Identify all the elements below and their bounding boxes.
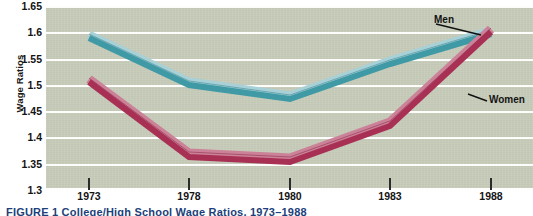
- x-tick-label-1983: 1983: [360, 190, 420, 202]
- figure-caption: FIGURE 1 College/High School Wage Ratios…: [6, 206, 526, 216]
- y-tick-label-1-3: 1.3: [8, 184, 42, 196]
- y-tick-label-1-55: 1.55: [8, 53, 42, 65]
- series-label-men: Men: [434, 14, 454, 25]
- plot-area: [46, 6, 533, 190]
- x-tick-label-1988: 1988: [461, 190, 521, 202]
- y-tick-label-1-35: 1.35: [8, 158, 42, 170]
- y-tick-label-1-5: 1.5: [8, 79, 42, 91]
- y-tick-label-1-4: 1.4: [8, 131, 42, 143]
- x-tick-label-1973: 1973: [59, 190, 119, 202]
- x-tick-label-1978: 1978: [159, 190, 219, 202]
- x-tick-label-1980: 1980: [260, 190, 320, 202]
- y-axis-tick-labels: 1.65 1.6 1.55 1.5 1.45 1.4 1.35 1.3: [8, 0, 42, 190]
- y-tick-label-1-65: 1.65: [8, 0, 42, 12]
- figure-root: Wage Ratios 1.65 1.6 1.55 1.5 1.45 1.4 1…: [0, 0, 533, 216]
- series-label-women: Women: [489, 94, 525, 105]
- y-tick-label-1-6: 1.6: [8, 26, 42, 38]
- series-plot: [46, 6, 533, 190]
- x-axis-tick-labels: 1973 1978 1980 1983 1988: [46, 190, 533, 206]
- y-tick-label-1-45: 1.45: [8, 105, 42, 117]
